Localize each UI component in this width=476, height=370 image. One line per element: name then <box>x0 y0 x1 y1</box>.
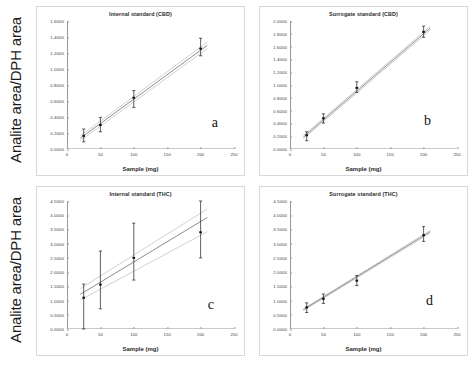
data-point <box>356 87 359 89</box>
data-point <box>422 31 425 33</box>
y-tick-label: 0.0000 <box>50 327 67 332</box>
y-tick-label: 0.5000 <box>50 312 67 317</box>
x-tick-label: 50 <box>321 329 326 337</box>
panel-c-letter: c <box>208 297 214 313</box>
x-tick-label: 250 <box>453 149 460 157</box>
panel-b: Surrogate standard (CBD) 0.00000.20000.4… <box>259 6 468 176</box>
x-tick-label: 50 <box>98 149 103 157</box>
x-tick-label: 0 <box>289 149 291 157</box>
y-tick-label: 0.2000 <box>50 131 67 136</box>
y-tick-label: 2.5000 <box>273 255 290 260</box>
x-tick-label: 200 <box>420 329 427 337</box>
y-tick-label: 2.0000 <box>273 270 290 275</box>
y-tick-label: 3.5000 <box>273 227 290 232</box>
y-tick-label: 1.6000 <box>50 19 67 24</box>
x-tick-label: 0 <box>66 149 68 157</box>
calibration-figure: Analite area/DPH area Internal standard … <box>0 0 476 370</box>
panel-d-title: Surrogate standard (THC) <box>260 191 467 197</box>
panel-b-x-label: Sample (mg) <box>260 166 467 172</box>
x-tick-label: 150 <box>164 149 171 157</box>
y-tick-label: 1.0000 <box>50 67 67 72</box>
y-tick-label: 1.2000 <box>273 70 290 75</box>
panel-c: Internal standard (THC) 0.00000.50001.00… <box>36 186 245 356</box>
confidence-band-upper <box>80 42 207 136</box>
y-tick-label: 0.0000 <box>50 147 67 152</box>
data-point <box>82 135 85 137</box>
data-point <box>82 297 85 299</box>
panel-d-letter: d <box>426 293 433 309</box>
y-tick-label: 4.5000 <box>50 199 67 204</box>
data-point <box>99 284 102 286</box>
y-tick-label: 0.8000 <box>50 83 67 88</box>
y-tick-label: 0.6000 <box>273 108 290 113</box>
x-tick-label: 100 <box>353 329 360 337</box>
panel-a-letter: a <box>212 115 218 131</box>
confidence-band-lower <box>303 30 430 139</box>
panel-b-letter: b <box>424 113 431 129</box>
y-tick-label: 1.0000 <box>273 83 290 88</box>
data-point <box>422 234 425 236</box>
y-tick-label: 3.0000 <box>273 241 290 246</box>
data-point <box>305 134 308 136</box>
panel-c-title: Internal standard (THC) <box>37 191 244 197</box>
y-tick-label: 1.2000 <box>50 51 67 56</box>
y-tick-label: 1.4000 <box>273 57 290 62</box>
x-tick-label: 100 <box>130 149 137 157</box>
y-tick-label: 1.6000 <box>273 44 290 49</box>
panel-b-series <box>290 21 476 171</box>
y-tick-label: 1.5000 <box>273 284 290 289</box>
y-tick-label: 3.0000 <box>50 241 67 246</box>
confidence-band-lower <box>80 232 207 300</box>
panel-a-x-label: Sample (mg) <box>37 166 244 172</box>
x-tick-label: 250 <box>230 149 237 157</box>
y-tick-label: 1.0000 <box>50 298 67 303</box>
x-tick-label: 0 <box>289 329 291 337</box>
y-tick-label: 0.8000 <box>273 95 290 100</box>
x-tick-label: 100 <box>130 329 137 337</box>
regression-line <box>80 217 207 294</box>
data-point <box>199 231 202 233</box>
panel-c-x-label: Sample (mg) <box>37 346 244 352</box>
x-tick-label: 0 <box>66 329 68 337</box>
regression-line <box>303 28 430 137</box>
panel-b-plot: 0.00000.20000.40000.60000.80001.00001.20… <box>290 21 457 149</box>
y-tick-label: 2.0000 <box>273 19 290 24</box>
data-point <box>199 48 202 50</box>
y-tick-label: 4.0000 <box>273 213 290 218</box>
y-tick-label: 2.5000 <box>50 255 67 260</box>
panel-d-plot: 0.00000.50001.00001.50002.00002.50003.00… <box>290 201 457 329</box>
data-point <box>305 306 308 308</box>
y-tick-label: 0.4000 <box>50 115 67 120</box>
y-tick-label: 0.4000 <box>273 121 290 126</box>
x-tick-label: 250 <box>453 329 460 337</box>
x-tick-label: 200 <box>197 329 204 337</box>
y-tick-label: 3.5000 <box>50 227 67 232</box>
x-tick-label: 150 <box>164 329 171 337</box>
panel-a-title: Internal standard (CBD) <box>37 11 244 17</box>
confidence-band-upper <box>303 230 430 309</box>
x-tick-label: 50 <box>321 149 326 157</box>
panel-d-x-label: Sample (mg) <box>260 346 467 352</box>
panel-a-plot: 0.00000.20000.40000.60000.80001.00001.20… <box>67 21 234 149</box>
y-axis-label-text: Analite area/DPH area <box>7 17 24 163</box>
data-point <box>133 97 136 99</box>
x-tick-label: 200 <box>420 149 427 157</box>
y-tick-label: 0.6000 <box>50 99 67 104</box>
y-tick-label: 0.0000 <box>273 327 290 332</box>
panel-d-series <box>290 201 476 351</box>
y-tick-label: 1.4000 <box>50 35 67 40</box>
data-point <box>322 117 325 119</box>
data-point <box>99 124 102 126</box>
y-tick-label: 1.0000 <box>273 298 290 303</box>
x-tick-label: 200 <box>197 149 204 157</box>
x-tick-label: 50 <box>98 329 103 337</box>
data-point <box>133 257 136 259</box>
panel-a: Internal standard (CBD) 0.00000.20000.40… <box>36 6 245 176</box>
y-tick-label: 1.5000 <box>50 284 67 289</box>
y-tick-label: 0.5000 <box>273 312 290 317</box>
y-tick-label: 0.0000 <box>273 147 290 152</box>
y-tick-label: 4.5000 <box>273 199 290 204</box>
y-tick-label: 1.8000 <box>273 31 290 36</box>
y-tick-label: 2.0000 <box>50 270 67 275</box>
data-point <box>356 280 359 282</box>
